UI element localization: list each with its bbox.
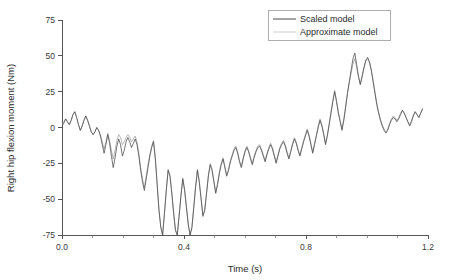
x-tick-label: 0.0 [56,242,68,252]
x-tick-label: 0.4 [178,242,190,252]
y-tick-label: -50 [43,194,56,204]
legend-label-approximate-model: Approximate model [300,27,378,37]
x-tick-label: 0.8 [300,242,312,252]
y-tick-label: 25 [46,87,56,97]
y-tick-label: -25 [43,158,56,168]
line-chart: 7550250-25-50-75 0.00.40.81.2 Time (s) R… [0,0,449,280]
y-tick-label: -75 [43,230,56,240]
x-axis-title: Time (s) [228,263,262,274]
plot-background [0,0,449,280]
y-axis-title: Right hip flexion moment (Nm) [5,64,16,192]
legend-label-scaled-model: Scaled model [300,14,355,24]
chart-legend: Scaled model Approximate model [268,10,390,40]
y-tick-label: 50 [46,51,56,61]
chart-figure: 7550250-25-50-75 0.00.40.81.2 Time (s) R… [0,0,449,280]
y-tick-label: 75 [46,15,56,25]
x-tick-label: 1.2 [422,242,434,252]
y-tick-label: 0 [50,123,55,133]
